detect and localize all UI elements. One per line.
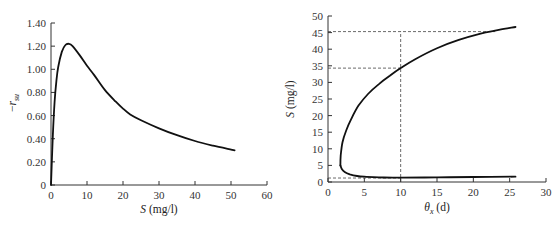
x-tick-label: 15 (432, 186, 444, 198)
x-tick-label: 60 (262, 189, 274, 201)
x-tick-label: 0 (325, 186, 331, 198)
x-tick-label: 50 (226, 189, 238, 201)
x-tick-label: 10 (82, 189, 94, 201)
right-x-axis-label: θx (d) (424, 201, 450, 216)
y-tick-label: 15 (312, 126, 324, 138)
left-rate-curve (51, 44, 235, 185)
y-tick-label: 1.20 (27, 40, 47, 52)
y-tick-label: 50 (312, 10, 324, 22)
y-tick-label: 45 (312, 27, 324, 39)
y-tick-label: 0.60 (27, 110, 47, 122)
left-chart-rate-vs-substrate: 010203040506000.200.400.600.801.001.201.… (6, 17, 273, 216)
y-tick-label: 20 (312, 110, 324, 122)
right-y-axis-label: S (mg/l) (284, 80, 297, 118)
right-tick-labels: 05101520253005101520253035404550 (312, 10, 552, 198)
y-tick-label: 0 (41, 179, 47, 191)
left-tick-labels: 010203040506000.200.400.600.801.001.201.… (27, 17, 273, 201)
x-tick-label: 40 (190, 189, 202, 201)
x-tick-label: 20 (118, 189, 130, 201)
y-tick-label: 1.00 (27, 63, 47, 75)
y-tick-label: 0.20 (27, 156, 47, 168)
y-tick-label: 0 (318, 176, 324, 188)
right-chart-substrate-vs-srt: 05101520253005101520253035404550 θx (d) … (284, 10, 552, 216)
y-tick-label: 10 (312, 143, 324, 155)
x-tick-label: 25 (504, 186, 516, 198)
right-axes (328, 16, 546, 182)
right-upper-branch-curve (340, 27, 515, 165)
x-tick-label: 30 (154, 189, 166, 201)
y-tick-label: 35 (312, 60, 324, 72)
right-lower-branch-curve (340, 165, 515, 177)
x-tick-label: 0 (48, 189, 54, 201)
y-tick-label: 5 (318, 159, 324, 171)
y-tick-label: 30 (312, 76, 324, 88)
right-dashed-guides (328, 32, 495, 182)
x-tick-label: 10 (395, 186, 407, 198)
left-x-axis-label: S (mg/l) (140, 203, 178, 216)
y-tick-label: 0.40 (27, 133, 47, 145)
left-axes (51, 23, 267, 185)
y-tick-label: 40 (312, 43, 324, 55)
figure-two-charts: 010203040506000.200.400.600.801.001.201.… (0, 0, 560, 226)
y-tick-label: 25 (312, 93, 324, 105)
x-tick-label: 5 (362, 186, 368, 198)
y-tick-label: 1.40 (27, 17, 47, 29)
left-y-axis-label: −rsu (6, 94, 21, 112)
x-tick-label: 20 (468, 186, 480, 198)
y-tick-label: 0.80 (27, 86, 47, 98)
x-tick-label: 30 (541, 186, 553, 198)
